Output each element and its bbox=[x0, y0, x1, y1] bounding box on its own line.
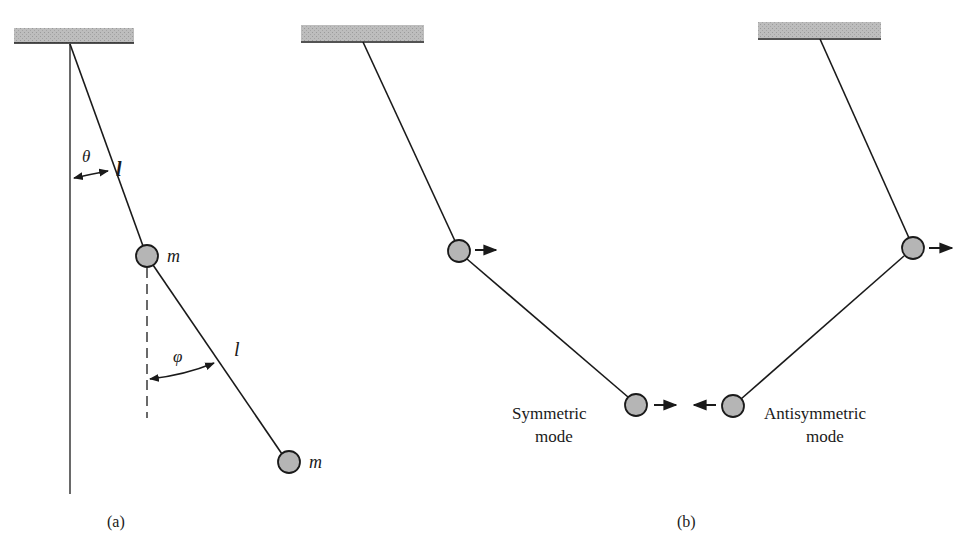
symmetric-label-line2: mode bbox=[535, 427, 573, 446]
ceiling-support-a bbox=[14, 28, 134, 43]
antisymmetric-mode-pendulum bbox=[694, 22, 952, 417]
mass-upper-a bbox=[136, 245, 158, 267]
lower-mass-label: m bbox=[309, 452, 322, 472]
symmetric-label-line1: Symmetric bbox=[512, 404, 587, 423]
ceiling-support-symmetric bbox=[301, 25, 424, 41]
panel-a: θ l m φ l m (a) bbox=[14, 28, 322, 531]
panel-a-caption: (a) bbox=[107, 513, 125, 531]
mass-lower-antisymmetric bbox=[722, 395, 744, 417]
upper-rod-a bbox=[70, 44, 143, 246]
antisymmetric-label-line2: mode bbox=[806, 427, 844, 446]
theta-label: θ bbox=[82, 147, 90, 166]
panel-b: Symmetric mode Antisymmetric mode (b) bbox=[301, 22, 952, 531]
mass-lower-symmetric bbox=[625, 394, 647, 416]
upper-length-label: l bbox=[116, 158, 122, 180]
theta-arc-arrow bbox=[74, 171, 108, 178]
lower-rod-antisymmetric bbox=[741, 256, 904, 399]
lower-rod-symmetric bbox=[467, 259, 628, 397]
mass-upper-symmetric bbox=[448, 240, 470, 262]
phi-label: φ bbox=[173, 347, 182, 366]
mass-upper-antisymmetric bbox=[902, 237, 924, 259]
ceiling-support-antisymmetric bbox=[758, 22, 881, 38]
lower-length-label: l bbox=[234, 338, 240, 360]
upper-mass-label: m bbox=[167, 246, 180, 266]
double-pendulum-diagram: θ l m φ l m (a) S bbox=[0, 0, 972, 544]
upper-rod-symmetric bbox=[363, 42, 455, 241]
upper-rod-antisymmetric bbox=[820, 39, 909, 238]
panel-b-caption: (b) bbox=[677, 513, 696, 531]
symmetric-mode-pendulum bbox=[301, 25, 676, 416]
antisymmetric-label-line1: Antisymmetric bbox=[764, 404, 866, 423]
mass-lower-a bbox=[278, 451, 300, 473]
